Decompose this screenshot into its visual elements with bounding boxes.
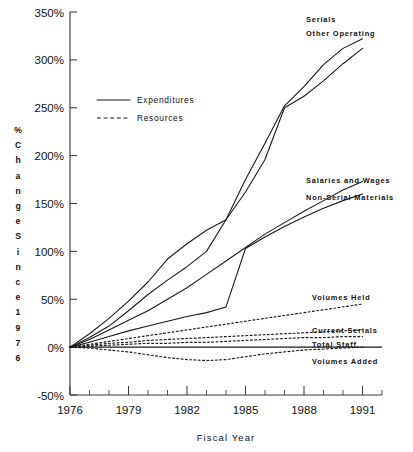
y-tick-label: -50% (37, 390, 64, 402)
y-axis-title-char: n (15, 186, 20, 196)
series-label-current-serials: Current Serials (312, 326, 378, 335)
y-axis-title-char: S (15, 231, 21, 241)
series-label-serials: Serials (306, 15, 336, 24)
x-tick-label: 1991 (350, 404, 376, 416)
y-axis-title-char: e (16, 292, 21, 302)
y-tick-label: 300% (35, 54, 64, 66)
y-tick-label: 0% (47, 342, 64, 354)
chart-background (0, 0, 413, 452)
x-tick-label: 1979 (116, 404, 142, 416)
series-label-non-serial-materials: Non-Serial Materials (306, 193, 394, 202)
series-label-volumes-added: Volumes Added (312, 357, 378, 366)
y-axis-title-char: c (16, 277, 21, 287)
x-tick-label: 1982 (174, 404, 200, 416)
y-axis-title-char: e (16, 216, 21, 226)
y-axis-title-char: n (15, 262, 20, 272)
y-axis-title-char: C (15, 140, 21, 150)
y-tick-label: 350% (35, 7, 64, 19)
y-tick-label: 150% (35, 198, 64, 210)
legend-label-expenditures: Expenditures (137, 95, 194, 105)
y-axis-title-char: 9 (16, 323, 21, 333)
series-label-total-staff: Total Staff (312, 340, 357, 349)
y-axis-title-char: % (14, 125, 22, 135)
x-tick-label: 1976 (57, 404, 83, 416)
y-axis-title-char: 1 (16, 307, 21, 317)
y-tick-label: 200% (35, 150, 64, 162)
percent-change-line-chart: -50%0%50%100%150%200%250%300%350% 197619… (0, 0, 413, 452)
y-axis-title-char: 7 (16, 338, 21, 348)
series-label-volumes-held: Volumes Held (312, 293, 371, 302)
y-tick-label: 50% (41, 294, 64, 306)
series-label-other-operating: Other Operating (306, 29, 375, 38)
series-label-salaries-and-wages: Salaries and Wages (306, 176, 390, 185)
y-axis-title-char: h (15, 155, 20, 165)
y-tick-label: 100% (35, 246, 64, 258)
chart-container: -50%0%50%100%150%200%250%300%350% 197619… (0, 0, 413, 452)
x-axis-title: Fiscal Year (197, 432, 256, 443)
y-axis-title-char: g (15, 201, 20, 211)
y-tick-label: 250% (35, 102, 64, 114)
x-tick-label: 1985 (233, 404, 259, 416)
legend-label-resources: Resources (137, 113, 183, 123)
y-axis-title-char: i (17, 247, 19, 257)
y-axis-title-char: a (16, 171, 21, 181)
x-tick-label: 1988 (291, 404, 317, 416)
y-axis-title-char: 6 (16, 353, 21, 363)
